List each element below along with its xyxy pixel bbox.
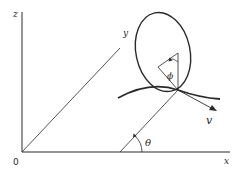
theta-arc (135, 136, 142, 152)
y-axis-label: y (122, 28, 129, 38)
diagram-canvas: z y x 0 θ ϕ v (0, 0, 240, 175)
velocity-arrow (178, 90, 213, 109)
phi-label: ϕ (167, 71, 173, 81)
track-curve (118, 87, 220, 99)
theta-label: θ (145, 137, 151, 148)
z-axis-label: z (12, 9, 18, 19)
disk-ellipse (128, 7, 197, 96)
velocity-arrowhead (209, 105, 217, 111)
x-axis-label: x (224, 156, 229, 166)
velocity-label: v (206, 114, 213, 127)
theta-arc-arrowhead (133, 134, 137, 138)
y-axis (22, 48, 120, 152)
origin-label: 0 (13, 157, 19, 167)
